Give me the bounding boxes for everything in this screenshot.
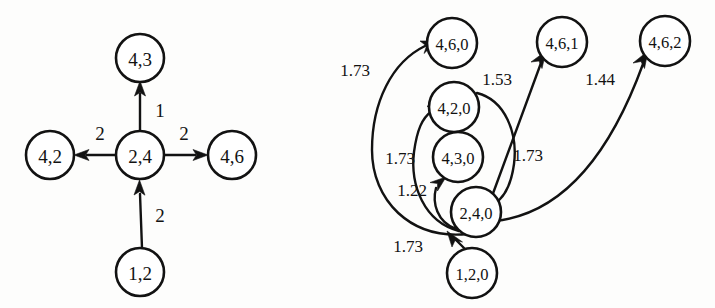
node-2-4[interactable]: 2,4 <box>116 131 164 179</box>
node-4-6-1[interactable]: 4,6,1 <box>537 17 587 67</box>
edge-2_4_0-to-4_6_2 <box>495 51 648 221</box>
edge-weight-2_4_0-4_3_0: 1.22 <box>397 181 427 200</box>
edge-weight-2_4-4_6: 2 <box>179 123 189 144</box>
edge-weight-2_4-4_3: 1 <box>155 100 165 121</box>
edge-1_2-to-2_4 <box>134 180 145 248</box>
node-label: 4,2 <box>38 146 62 167</box>
node-label: 4,6,2 <box>649 33 682 52</box>
node-label: 4,6,1 <box>546 34 579 53</box>
node-4-3-0[interactable]: 4,3,0 <box>433 132 483 182</box>
edge-weight-2_4_0-4_6_0: 1.73 <box>340 61 370 80</box>
node-4-2[interactable]: 4,2 <box>26 131 74 179</box>
edge-2_4-to-4_3 <box>135 81 146 131</box>
node-2-4-0[interactable]: 2,4,0 <box>451 187 501 237</box>
edge-weight-1_2-2_4: 2 <box>155 205 165 226</box>
edge-2_4-to-4_6 <box>164 150 208 161</box>
edge-weight-2_4_0-4_2_0: 1.73 <box>385 149 415 168</box>
node-label: 4,6,0 <box>436 35 469 54</box>
node-4-3[interactable]: 4,3 <box>116 34 164 82</box>
edge-line <box>140 194 142 248</box>
graph-svg: 4,3 4,2 2,4 4,6 1,2 1 2 2 2 <box>0 0 715 308</box>
left-graph-nodes: 4,3 4,2 2,4 4,6 1,2 <box>26 34 256 296</box>
figure-canvas: 4,3 4,2 2,4 4,6 1,2 1 2 2 2 <box>0 0 715 308</box>
node-4-6[interactable]: 4,6 <box>208 131 256 179</box>
edge-weight-2_4_0-4_6_2: 1.44 <box>585 70 615 89</box>
node-1-2[interactable]: 1,2 <box>116 248 164 296</box>
arrow-head <box>430 177 446 191</box>
node-label: 1,2 <box>128 263 152 284</box>
edge-2_4-to-4_2 <box>74 150 116 161</box>
node-label: 1,2,0 <box>456 265 489 284</box>
node-label: 4,6 <box>220 146 244 167</box>
node-label: 4,2,0 <box>438 99 471 118</box>
edge-weight-4_2_0-2_4_0: 1.73 <box>513 146 543 165</box>
edge-weight-1_2_0-2_4_0: 1.73 <box>393 237 423 256</box>
right-graph-nodes: 4,6,0 4,6,1 4,6,2 4,2,0 4,3,0 2,4,0 <box>427 16 690 298</box>
node-label: 2,4 <box>128 146 152 167</box>
node-label: 4,3 <box>128 49 152 70</box>
node-4-6-2[interactable]: 4,6,2 <box>640 16 690 66</box>
edge-weight-2_4-4_2: 2 <box>95 123 105 144</box>
edge-weight-2_4_0-4_6_1: 1.53 <box>482 70 512 89</box>
node-label: 2,4,0 <box>460 204 493 223</box>
node-4-2-0[interactable]: 4,2,0 <box>429 82 479 132</box>
node-1-2-0[interactable]: 1,2,0 <box>447 248 497 298</box>
edge-line <box>495 64 643 221</box>
node-4-6-0[interactable]: 4,6,0 <box>427 18 477 68</box>
node-label: 4,3,0 <box>442 149 475 168</box>
